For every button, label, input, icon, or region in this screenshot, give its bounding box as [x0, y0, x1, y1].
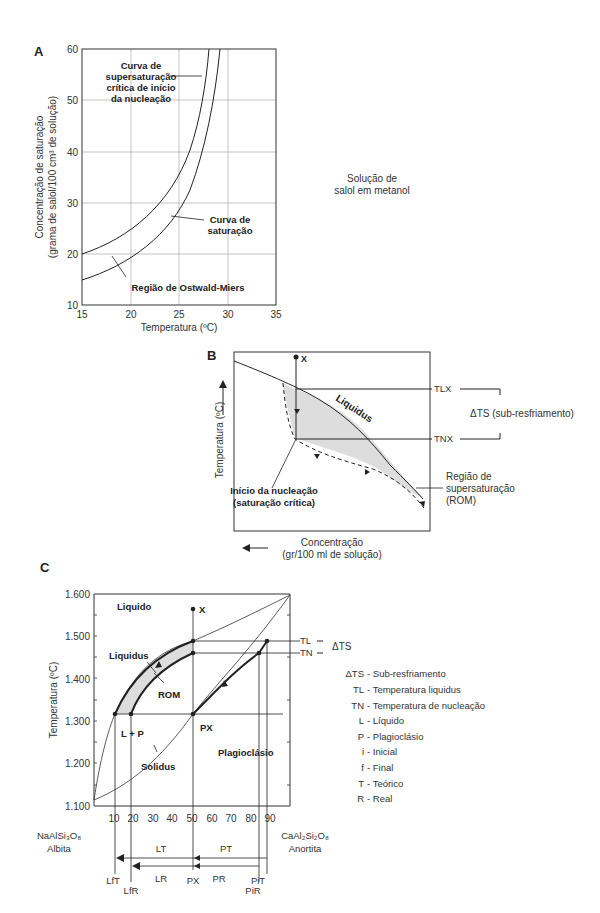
- legend-desc: - Sub-resfriamento: [367, 668, 446, 679]
- annotation: supersaturação: [106, 71, 177, 82]
- x-tick: 30: [222, 309, 234, 320]
- x-tick: 20: [125, 309, 137, 320]
- x-tick: 40: [166, 813, 178, 824]
- panel-b-xlabel: (gr/100 ml de solução): [282, 549, 382, 560]
- panel-c-ylabel: Temperatura (ºC): [48, 662, 59, 738]
- x-tick: 90: [264, 813, 276, 824]
- lfr-label: LfR: [124, 885, 139, 896]
- pir-label: PiR: [245, 885, 260, 896]
- y-tick: 30: [67, 198, 79, 209]
- nucleation-label: Início da nucleação: [230, 485, 318, 496]
- panel-c: C 1.600 1.500 1.400 1.300 1.200 1.100 10…: [37, 560, 485, 896]
- x-tick: 60: [206, 813, 218, 824]
- lt-label: LT: [156, 843, 167, 854]
- panel-a-label: A: [34, 44, 44, 59]
- y-tick: 1.400: [65, 674, 90, 685]
- leader-line: [171, 216, 204, 220]
- legend-symbol: f: [361, 762, 364, 773]
- region-label: Liquido: [117, 601, 151, 612]
- albite-formula: NaAlSi₃O₈: [37, 830, 81, 841]
- lr-label: LR: [155, 873, 167, 884]
- delta-label: ΔTS: [332, 641, 352, 652]
- legend-desc: - Real: [367, 793, 392, 804]
- panel-a: A 15 20 25 30 35 10 20 30 40 50 60: [34, 44, 410, 333]
- legend-desc: - Inicial: [367, 746, 397, 757]
- albite-name: Albita: [47, 843, 71, 854]
- nucleation-label: (saturação crítica): [233, 497, 315, 508]
- annotation: Curva de: [121, 60, 162, 71]
- point-x: [191, 607, 196, 612]
- y-tick: 1.500: [65, 631, 90, 642]
- tnx-label: TNX: [434, 433, 454, 444]
- x-tick: 50: [186, 813, 198, 824]
- px-label: PX: [187, 875, 200, 886]
- anorthite-formula: CaAl₂Si₂O₈: [281, 830, 329, 841]
- pit-label: PiT: [251, 875, 265, 886]
- legend-symbol: R: [357, 793, 364, 804]
- region-label: Liquidus: [109, 650, 149, 661]
- panel-c-label: C: [40, 560, 50, 575]
- y-tick: 1.300: [65, 716, 90, 727]
- legend-symbol: T: [358, 778, 364, 789]
- x-tick: 35: [270, 309, 282, 320]
- legend-symbol: TL: [353, 684, 364, 695]
- side-note: salol em metanol: [334, 185, 410, 196]
- point-x-label: X: [301, 354, 307, 364]
- y-tick: 20: [67, 249, 79, 260]
- delta-label: ΔTS (sub-resfriamento): [470, 408, 574, 419]
- panel-b: B X Liquidus TLX TNX ΔTS (sub-resfriamen…: [207, 348, 574, 560]
- tl-label: TL: [300, 635, 311, 646]
- legend-desc: - Líquido: [367, 715, 404, 726]
- x-tick: 20: [127, 813, 139, 824]
- y-tick: 1.200: [65, 758, 90, 769]
- x-tick: 15: [76, 309, 88, 320]
- annotation: Curva de: [210, 214, 251, 225]
- y-tick: 1.600: [65, 589, 90, 600]
- legend-symbol: i: [362, 746, 364, 757]
- legend-symbol: P: [358, 731, 364, 742]
- y-tick: 50: [67, 95, 79, 106]
- tlx-label: TLX: [434, 383, 452, 394]
- y-tick: 60: [67, 44, 79, 55]
- legend-desc: - Final: [367, 762, 393, 773]
- annotation: crítica de início: [106, 82, 175, 93]
- x-tick: 80: [245, 813, 257, 824]
- region-label: Solidus: [141, 761, 175, 772]
- panel-a-xlabel: Temperatura (ºC): [141, 322, 217, 333]
- x-tick: 30: [147, 813, 159, 824]
- panel-b-label: B: [207, 348, 216, 363]
- region-label: L + P: [121, 728, 144, 739]
- legend-symbol: TN: [351, 700, 364, 711]
- region-label: (ROM): [446, 495, 476, 506]
- legend: ΔTS - Sub-resfriamento TL - Temperatura …: [346, 668, 486, 804]
- side-note: Solução de: [347, 173, 397, 184]
- point-x-label: X: [199, 604, 206, 615]
- panel-a-ylabel-1: Concentração de saturação: [34, 115, 45, 238]
- figure-canvas: A 15 20 25 30 35 10 20 30 40 50 60: [0, 0, 600, 913]
- legend-desc: - Plagioclásio: [367, 731, 424, 742]
- legend-desc: - Temperatura liquidus: [367, 684, 461, 695]
- pt-label: PT: [220, 843, 232, 854]
- annotation: da nucleação: [111, 93, 171, 104]
- panel-b-ylabel: Temperatura (ºC): [214, 402, 225, 478]
- lft-label: LfT: [106, 875, 120, 886]
- y-tick: 10: [67, 300, 79, 311]
- legend-symbol: L: [359, 715, 364, 726]
- point-x: [294, 355, 299, 360]
- region-label: Plagioclásio: [218, 747, 274, 758]
- x-tick: 25: [173, 309, 185, 320]
- annotation: Região de Ostwald-Miers: [132, 282, 245, 293]
- leader-line: [112, 256, 126, 277]
- pr-label: PR: [212, 873, 225, 884]
- x-tick: 10: [108, 813, 120, 824]
- anorthite-name: Anortita: [289, 843, 322, 854]
- region-label: ROM: [158, 689, 180, 700]
- y-tick: 40: [67, 147, 79, 158]
- legend-desc: - Temperatura de nucleação: [367, 700, 485, 711]
- panel-b-xlabel: Concentração: [301, 537, 364, 548]
- region-label: supersaturação: [446, 483, 515, 494]
- region-label: PX: [200, 722, 213, 733]
- panel-a-ylabel-2: (grama de salol/100 cm³ de solução): [47, 96, 58, 258]
- legend-desc: - Teórico: [367, 778, 403, 789]
- legend-symbol: ΔTS: [346, 668, 365, 679]
